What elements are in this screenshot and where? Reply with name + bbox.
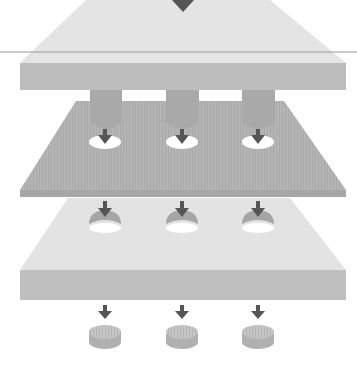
punch-2 xyxy=(166,90,199,129)
arrow-down-icon xyxy=(175,305,189,319)
punch-plate-front-face xyxy=(20,63,346,90)
punching-process-diagram: Punching / die-cutting process: punch pl… xyxy=(0,0,357,371)
die-plate-front-face xyxy=(20,270,346,300)
slug-2 xyxy=(166,325,198,349)
slug-3 xyxy=(242,325,274,349)
punch-3 xyxy=(242,90,275,129)
arrow-down-icon xyxy=(98,305,112,319)
punch-1 xyxy=(90,90,122,129)
sheet-edge xyxy=(20,190,346,197)
slug-1 xyxy=(89,325,121,349)
punch-plate xyxy=(0,0,357,90)
slugs xyxy=(89,305,274,349)
arrow-down-icon xyxy=(251,305,265,319)
die-plate xyxy=(20,198,346,300)
